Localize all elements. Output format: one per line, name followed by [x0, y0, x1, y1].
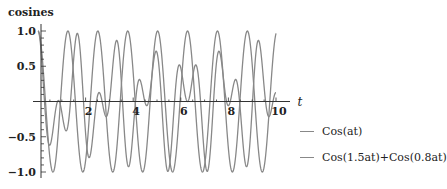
y-tick-label: −0.5: [8, 131, 36, 144]
x-tick-label: 4: [132, 105, 140, 118]
y-axis-title: cosines: [8, 6, 54, 19]
x-tick-label: 2: [85, 105, 93, 118]
legend-swatch-icon: [300, 131, 314, 132]
legend-label: Cos(1.5at)+Cos(0.8at): [322, 151, 447, 164]
legend-item-sum: Cos(1.5at)+Cos(0.8at): [300, 151, 447, 164]
y-tick-label: 0.5: [17, 60, 36, 73]
y-tick-label: 1.0: [17, 25, 36, 38]
x-axis-title: t: [298, 95, 303, 109]
legend-item-cos-at: Cos(at): [300, 125, 362, 138]
x-tick-label: 6: [180, 105, 188, 118]
legend-label: Cos(at): [322, 125, 362, 138]
y-tick-label: −1.0: [8, 166, 37, 179]
legend-swatch-icon: [300, 157, 314, 158]
x-tick-label: 8: [228, 105, 236, 118]
x-tick-label: 10: [271, 105, 287, 118]
